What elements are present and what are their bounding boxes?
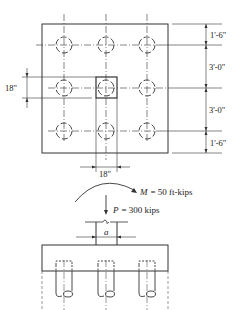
dim-left-18in <box>26 68 29 108</box>
moment-value: = 50 ft-kips <box>151 187 194 197</box>
load-value: = 300 kips <box>122 205 161 215</box>
dim-label-left-18in: 18" <box>5 83 17 93</box>
moment-arc <box>75 183 134 202</box>
pile-cap-diagram: 1'-6" 3'-0" 3'-0" 1'-6" 18" 18" M= 50 ft… <box>0 0 247 310</box>
dim-label-3-0-upper: 3'-0" <box>209 62 225 72</box>
dim-label-3-0-lower: 3'-0" <box>209 105 225 115</box>
load-symbol: P <box>112 205 119 215</box>
moment-label: M= 50 ft-kips <box>139 187 193 197</box>
dim-label-a: a <box>104 227 109 237</box>
dim-label-top-1-6: 1'-6" <box>210 30 226 40</box>
pile-cap-elevation <box>42 245 168 271</box>
plan-view <box>22 14 222 172</box>
elevation-view <box>42 183 168 310</box>
dim-label-bottom-18in: 18" <box>99 169 111 179</box>
moment-symbol: M <box>139 187 148 197</box>
column-break-icon <box>103 220 109 224</box>
pile-cap-outline-plan <box>42 24 168 153</box>
dim-right-chain <box>160 24 222 153</box>
load-arrowhead-icon <box>104 210 108 215</box>
dim-label-bottom-1-6: 1'-6" <box>210 138 226 148</box>
load-label: P= 300 kips <box>112 205 160 215</box>
